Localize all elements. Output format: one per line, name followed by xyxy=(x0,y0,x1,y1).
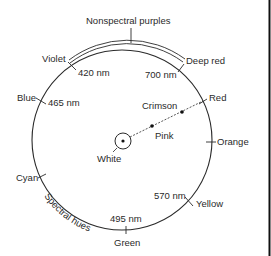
violet-label: Violet xyxy=(42,53,66,64)
green-label: Green xyxy=(114,237,140,248)
pink-label: Pink xyxy=(155,130,174,141)
deep-red-wavelength: 700 nm xyxy=(145,69,177,80)
green-wavelength: 495 nm xyxy=(110,213,142,224)
crimson-label: Crimson xyxy=(142,100,177,111)
nonspectral-arc xyxy=(70,44,183,63)
red-label: Red xyxy=(209,92,226,103)
blue-label: Blue xyxy=(17,92,36,103)
cyan-label: Cyan xyxy=(16,172,38,183)
blue-wavelength: 465 nm xyxy=(48,97,80,108)
deep-red-tick xyxy=(178,64,184,72)
deep-red-label: Deep red xyxy=(186,55,225,66)
pink-point xyxy=(150,124,154,128)
spectral-hues-label: Spectral hues xyxy=(42,191,92,234)
white-label: White xyxy=(97,153,121,164)
orange-label: Orange xyxy=(217,136,249,147)
yellow-label: Yellow xyxy=(196,198,223,209)
yellow-wavelength: 570 nm xyxy=(154,190,186,201)
nonspectral-purples-label: Nonspectral purples xyxy=(86,15,171,26)
blue-tick xyxy=(36,98,46,104)
color-circle-diagram: Nonspectral purples Violet 420 nm Deep r… xyxy=(0,0,271,256)
crimson-point xyxy=(180,110,184,114)
violet-wavelength: 420 nm xyxy=(78,67,110,78)
white-point-dot xyxy=(121,139,124,142)
yellow-tick xyxy=(185,197,193,206)
white-pointer xyxy=(113,148,117,152)
